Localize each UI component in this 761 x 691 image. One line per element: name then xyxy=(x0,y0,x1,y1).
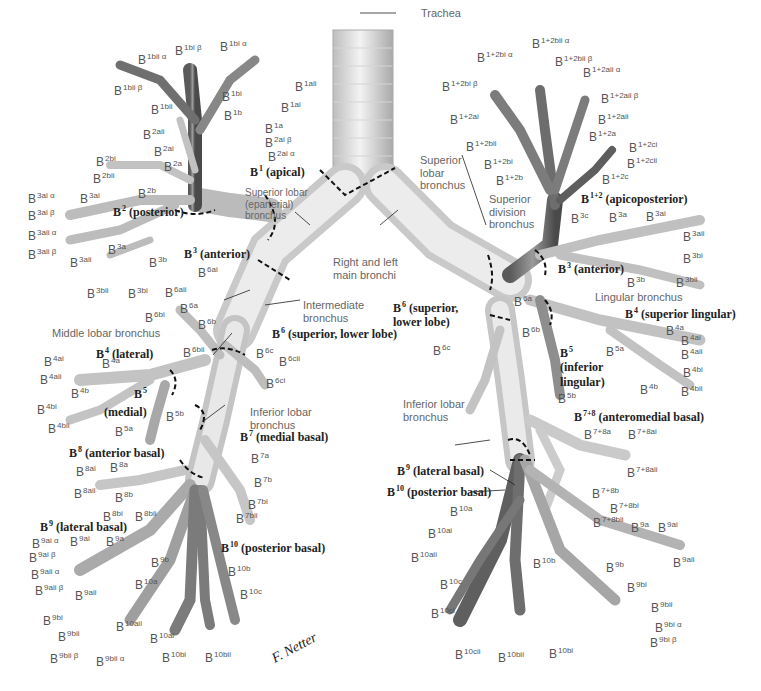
right-b10-posterior-basal-label: B10 (posterior basal) xyxy=(221,541,325,554)
subsegment-label: B1+2ci xyxy=(629,141,657,154)
subsegment-label: B1+2aii xyxy=(598,113,629,126)
subsegment-label: B2ai β xyxy=(265,136,292,149)
subsegment-label: B3aii xyxy=(70,256,91,269)
subsegment-label: B7+8bii xyxy=(593,516,624,529)
subsegment-label: B2a xyxy=(164,160,182,173)
left-b10-posterior-basal-label: B10 (posterior basal) xyxy=(387,485,491,498)
subsegment-label: B6ai xyxy=(198,266,218,279)
subsegment-label: B5a xyxy=(115,425,133,438)
subsegment-label: B5b xyxy=(166,410,184,423)
subsegment-label: B9bii α xyxy=(96,655,124,668)
subsegment-label: B9ai xyxy=(658,521,678,534)
subsegment-label: B1bii β xyxy=(114,84,142,97)
right-b5-num-label: B5 xyxy=(134,387,147,400)
subsegment-label: B7+8b xyxy=(592,487,619,500)
subsegment-label: B10c xyxy=(440,578,462,591)
subsegment-label: B7+8bi xyxy=(610,502,639,515)
left-b7-8-anteromedial-basal-label: B7+8 (anteromedial basal) xyxy=(574,410,704,423)
subsegment-label: B8a xyxy=(110,461,128,474)
subsegment-label: B7+8a xyxy=(584,428,611,441)
subsegment-label: B3a xyxy=(609,211,627,224)
subsegment-label: B6b xyxy=(198,318,216,331)
subsegment-label: B1bi xyxy=(222,90,242,103)
subsegment-label: B3ai β xyxy=(28,209,55,222)
subsegment-label: B9aii xyxy=(75,589,96,602)
subsegment-label: B4bii xyxy=(681,385,702,398)
subsegment-label: B1ai xyxy=(281,101,301,114)
subsegment-label: B6b xyxy=(522,326,540,339)
intermediate-bronchus-label: Intermediatebronchus xyxy=(303,299,364,324)
subsegment-label: B10a xyxy=(135,578,157,591)
subsegment-label: B3aii xyxy=(683,230,704,243)
subsegment-label: B3ai xyxy=(80,192,100,205)
subsegment-label: B6aii xyxy=(165,286,186,299)
subsegment-label: B3ai α xyxy=(28,192,55,205)
subsegment-label: B4ai xyxy=(681,334,701,347)
subsegment-label: B4aii xyxy=(40,373,61,386)
subsegment-label: B8ai xyxy=(76,465,96,478)
subsegment-label: B6c xyxy=(256,347,273,360)
subsegment-label: B1aii xyxy=(295,80,316,93)
subsegment-label: B9bii xyxy=(651,601,672,614)
subsegment-label: B6c xyxy=(433,344,450,357)
subsegment-label: B3c xyxy=(571,212,588,225)
subsegment-label: B10bi xyxy=(162,651,186,664)
subsegment-label: B1bii xyxy=(151,103,172,116)
subsegment-label: B10b xyxy=(533,557,555,570)
subsegment-label: B7bi xyxy=(248,498,268,511)
subsegment-label: B4bi xyxy=(37,403,57,416)
subsegment-label: B5a xyxy=(606,345,624,358)
subsegment-label: B10a xyxy=(450,505,472,518)
subsegment-label: B7bii xyxy=(236,512,257,525)
subsegment-label: B5b xyxy=(558,392,576,405)
subsegment-label: B3bii xyxy=(87,287,108,300)
right-b7-medial-basal-label: B7 (medial basal) xyxy=(240,430,328,443)
subsegment-label: B10b xyxy=(228,565,250,578)
subsegment-label: B3bi xyxy=(683,252,703,265)
left-inferior-lobar-label: Inferior lobarbronchus xyxy=(403,398,465,423)
subsegment-label: B1+2bii xyxy=(466,140,497,153)
subsegment-label: B2b xyxy=(138,187,156,200)
subsegment-label: B3b xyxy=(149,256,167,269)
subsegment-label: B10c xyxy=(240,588,262,601)
right-b6-superior-label: B6 (superior, lower lobe) xyxy=(272,327,397,340)
subsegment-label: B9bii xyxy=(58,630,79,643)
left-b6-superior-label: B6 (superior, lower lobe) xyxy=(393,300,473,330)
subsegment-label: B7b xyxy=(254,476,272,489)
subsegment-label: B9aii α xyxy=(31,568,59,581)
subsegment-label: B6cii xyxy=(279,355,300,368)
lingular-bronchus-label: Lingular bronchus xyxy=(595,291,682,304)
subsegment-label: B9ai β xyxy=(29,551,56,564)
left-b3-anterior-label: B3 (anterior) xyxy=(558,262,624,275)
subsegment-label: B10aii xyxy=(116,620,142,633)
subsegment-label: B10cii xyxy=(455,648,480,661)
left-b9-lateral-basal-label: B9 (lateral basal) xyxy=(397,464,484,477)
subsegment-label: B9a xyxy=(106,535,124,548)
subsegment-label: B10ai xyxy=(428,527,452,540)
main-bronchi-label: Right and leftmain bronchi xyxy=(333,256,398,281)
subsegment-label: B1+2ai xyxy=(450,113,479,126)
subsegment-label: B8aii xyxy=(74,487,95,500)
subsegment-label: B3aii β xyxy=(28,248,56,261)
subsegment-label: B3bii xyxy=(676,276,697,289)
subsegment-label: B10bii xyxy=(205,651,231,664)
subsegment-label: B9aii β xyxy=(35,584,63,597)
subsegment-label: B1+2bi xyxy=(484,158,513,171)
subsegment-label: B1+2bi β xyxy=(442,80,478,93)
subsegment-label: B1+2aii α xyxy=(583,66,620,79)
subsegment-label: B1+2aii β xyxy=(601,92,638,105)
subsegment-label: B9bii β xyxy=(50,652,78,665)
right-b2-posterior-label: B2 (posterior) xyxy=(113,205,184,218)
middle-lobar-bronchus-label: Middle lobar bronchus xyxy=(52,327,160,340)
subsegment-label: B6bi xyxy=(145,311,165,324)
subsegment-label: B8bii xyxy=(135,510,156,523)
subsegment-label: B7+8ai xyxy=(628,428,657,441)
subsegment-label: B3aii α xyxy=(28,229,56,242)
subsegment-label: B1+2a xyxy=(589,130,616,143)
subsegment-label: B9ai α xyxy=(32,537,59,550)
subsegment-label: B1+2bi α xyxy=(477,51,513,64)
subsegment-label: B4bii xyxy=(48,422,69,435)
right-inferior-lobar-label: Inferior lobarbronchus xyxy=(250,406,312,431)
subsegment-label: B2ai α xyxy=(268,150,295,163)
subsegment-label: B4b xyxy=(640,383,658,396)
